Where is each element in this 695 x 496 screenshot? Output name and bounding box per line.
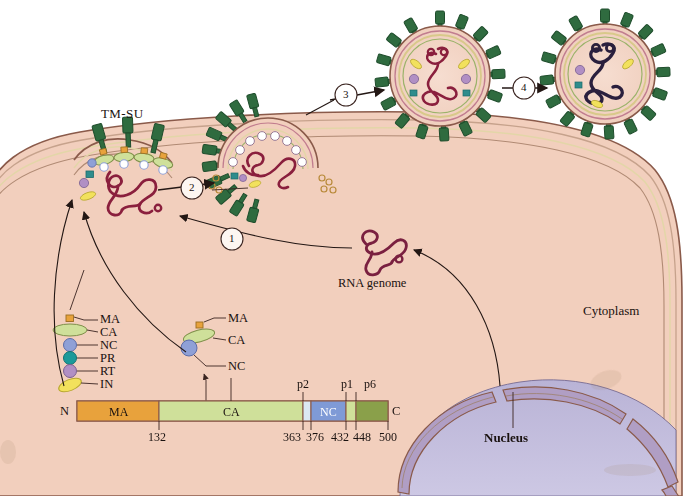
domain-label-MA: MA: [109, 405, 128, 420]
domain-label-NC: NC: [320, 405, 337, 420]
tick-label-376: 376: [306, 430, 324, 445]
key-label-IN: IN: [100, 377, 113, 392]
domain-p2[interactable]: [303, 401, 311, 421]
c-terminus-label: C: [392, 404, 400, 419]
step-3-label: 3: [343, 88, 349, 100]
tick-label-432: 432: [331, 430, 349, 445]
step-2-label: 2: [189, 181, 195, 193]
tick-label-448: 448: [353, 430, 371, 445]
step-1-label: 1: [229, 232, 235, 244]
subcomplex-label-CA: CA: [228, 333, 245, 348]
diagram-svg: [0, 0, 695, 496]
figure-canvas: TM-SU Cytoplasm Nucleus RNA genome 1 2 3…: [0, 0, 695, 496]
domain-label-CA: CA: [223, 405, 240, 420]
domain-label-p2: p2: [297, 377, 309, 392]
tick-label-363: 363: [283, 430, 301, 445]
nucleus-label: Nucleus: [484, 430, 528, 446]
mature-virion: [540, 9, 670, 139]
cytoplasm-label: Cytoplasm: [583, 303, 639, 319]
n-terminus-label: N: [60, 404, 69, 419]
tm-su-label: TM-SU: [101, 106, 143, 122]
tick-label-500: 500: [379, 430, 397, 445]
subcomplex-label-MA: MA: [228, 311, 248, 326]
domain-p1[interactable]: [346, 401, 356, 421]
domain-p6[interactable]: [356, 401, 388, 421]
tick-label-132: 132: [148, 430, 166, 445]
rna-genome-label: RNA genome: [338, 276, 406, 291]
domain-label-p6: p6: [364, 377, 376, 392]
domain-label-p1: p1: [341, 377, 353, 392]
subcomplex-label-NC: NC: [228, 359, 245, 374]
step-4-label: 4: [521, 81, 527, 93]
